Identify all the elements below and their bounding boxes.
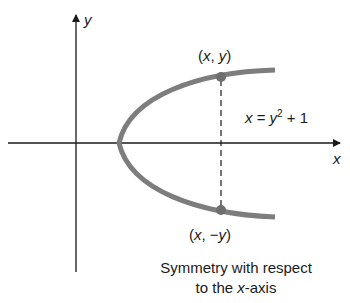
- symmetry-diagram: y x (x, y) (x, −y) x = y2 + 1 Symmetry w…: [0, 0, 350, 303]
- lower-point-label: (x, −y): [189, 226, 231, 243]
- point-upper: [216, 72, 226, 82]
- caption-line-1: Symmetry with respect: [160, 259, 313, 276]
- point-lower: [216, 205, 226, 215]
- y-axis-label: y: [83, 11, 93, 28]
- upper-point-label: (x, y): [198, 47, 231, 64]
- x-axis-label: x: [332, 150, 341, 167]
- caption-line-2: to the x-axis: [196, 279, 277, 296]
- equation-label: x = y2 + 1: [244, 108, 308, 126]
